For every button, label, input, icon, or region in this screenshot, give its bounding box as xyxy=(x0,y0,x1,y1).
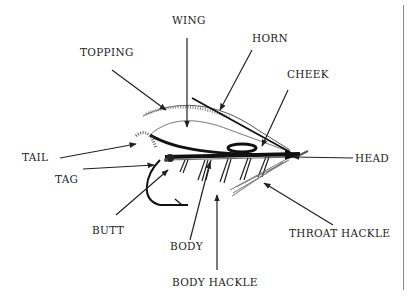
label-horn: HORN xyxy=(252,32,288,44)
label-topping: TOPPING xyxy=(80,46,134,58)
head-pointer xyxy=(293,157,353,158)
horn-pointer xyxy=(220,50,252,110)
label-tag: TAG xyxy=(55,173,78,185)
label-body: BODY xyxy=(170,240,203,252)
label-wing: WING xyxy=(172,14,206,26)
tag-pointer xyxy=(83,165,154,169)
label-tail: TAIL xyxy=(22,151,48,163)
label-head: HEAD xyxy=(355,152,389,164)
salmon-fly-illustration xyxy=(0,0,410,298)
cheek-pointer xyxy=(262,90,288,146)
topping-pointer xyxy=(112,70,166,110)
label-butt: BUTT xyxy=(92,224,124,236)
label-throat-hackle: THROAT HACKLE xyxy=(289,227,390,239)
butt-pointer xyxy=(116,170,168,215)
label-body-hackle: BODY HACKLE xyxy=(172,276,258,288)
throat-hackle-pointer xyxy=(264,183,333,225)
tail-pointer xyxy=(60,144,136,158)
label-cheek: CHEEK xyxy=(287,68,329,80)
